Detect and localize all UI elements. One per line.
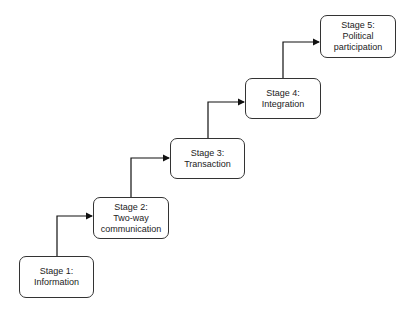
stage-4-box: Stage 4: Integration <box>245 78 321 119</box>
arrow-stage3-to-stage4 <box>208 102 244 138</box>
stage-1-title: Stage 1: <box>34 266 79 277</box>
stage-4-title: Stage 4: <box>262 88 305 99</box>
stage-3-label: Transaction <box>184 159 231 170</box>
stage-2-title: Stage 2: <box>101 202 162 213</box>
stage-5-title: Stage 5: <box>334 20 383 31</box>
stage-2-box: Stage 2: Two-way communication <box>93 197 169 239</box>
stage-4-label: Integration <box>262 99 305 110</box>
arrow-stage4-to-stage5 <box>283 42 319 78</box>
arrow-stage2-to-stage3 <box>131 158 169 197</box>
stage-1-label: Information <box>34 277 79 288</box>
stage-5-label-line2: participation <box>334 42 383 53</box>
stage-5-box: Stage 5: Political participation <box>320 15 396 58</box>
stage-2-label-line1: Two-way <box>101 213 162 224</box>
arrow-stage1-to-stage2 <box>57 216 92 256</box>
stage-3-box: Stage 3: Transaction <box>170 138 245 179</box>
stage-1-box: Stage 1: Information <box>19 256 94 298</box>
stage-3-title: Stage 3: <box>184 148 231 159</box>
stage-2-label-line2: communication <box>101 224 162 235</box>
stage-5-label-line1: Political <box>334 31 383 42</box>
